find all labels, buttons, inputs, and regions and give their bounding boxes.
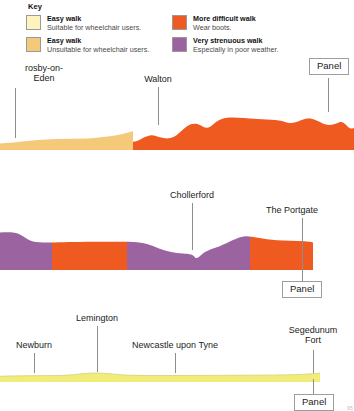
leader-line-crosby-on-eden xyxy=(15,88,16,138)
leader-line-panel-2 xyxy=(302,263,303,281)
label-newcastle-upon-tyne: Newcastle upon Tyne xyxy=(132,340,218,350)
label-line-1: rosby-on- xyxy=(25,63,63,73)
key-item-desc: Wear boots. xyxy=(193,24,256,32)
band-more-difficult-walk xyxy=(133,108,354,150)
key-column-right: More difficult walk Wear boots. Very str… xyxy=(172,15,279,59)
key-item-desc: Especially in poor weather. xyxy=(193,46,279,54)
band-easy-walk xyxy=(0,108,133,150)
key-item-desc: Unsuitable for wheelchair users. xyxy=(47,46,149,54)
label-chollerford: Chollerford xyxy=(170,190,214,200)
leader-line-lemington xyxy=(97,326,98,372)
label-line-1: Segedunum xyxy=(289,325,338,335)
section-1-profile-chart xyxy=(0,108,354,150)
band-more-difficult-walk xyxy=(250,222,313,270)
elevation-profile-page: Key Easy walk Suitable for wheelchair us… xyxy=(0,0,354,411)
elevation-profile-section-1 xyxy=(0,108,354,150)
section-3-profile-chart xyxy=(0,366,354,382)
easy-walk-no-wheelchair-swatch-icon xyxy=(26,37,41,52)
easy-walk-wheelchair-swatch-icon xyxy=(26,15,41,30)
key-item-very-strenuous-walk: Very strenuous walk Especially in poor w… xyxy=(172,37,279,54)
band-easy-walk xyxy=(0,366,320,382)
section-2-profile-chart xyxy=(0,222,354,270)
key-item-name: Very strenuous walk xyxy=(193,37,279,45)
key-item-name: Easy walk xyxy=(47,37,149,45)
label-line-1: The Portgate xyxy=(266,205,318,215)
leader-line-chollerford xyxy=(192,203,193,250)
leader-line-newburn xyxy=(34,353,35,373)
key-item-desc: Suitable for wheelchair users. xyxy=(47,24,141,32)
key-column-left: Easy walk Suitable for wheelchair users.… xyxy=(26,15,149,59)
band-very-strenuous-walk xyxy=(127,222,250,270)
panel-box-section-3[interactable]: Panel xyxy=(294,394,334,411)
key-title: Key xyxy=(28,2,326,11)
label-lemington: Lemington xyxy=(76,313,118,323)
label-line-1: Newburn xyxy=(16,340,52,350)
label-line-1: Newcastle upon Tyne xyxy=(132,340,218,350)
band-more-difficult-walk xyxy=(52,222,127,270)
section-2-difficulty-bands xyxy=(0,222,313,270)
label-line-1: Walton xyxy=(144,74,172,84)
more-difficult-walk-swatch-icon xyxy=(172,15,187,30)
panel-box-section-2[interactable]: Panel xyxy=(282,281,322,298)
label-walton: Walton xyxy=(144,74,172,84)
label-line-2: Eden xyxy=(33,73,54,83)
key-legend: Key Easy walk Suitable for wheelchair us… xyxy=(26,2,326,57)
leader-line-segedunum-fort xyxy=(313,350,314,373)
section-3-difficulty-bands xyxy=(0,366,320,382)
key-item-name: More difficult walk xyxy=(193,15,256,23)
elevation-profile-section-2 xyxy=(0,222,354,270)
key-item-name: Easy walk xyxy=(47,15,141,23)
elevation-profile-section-3 xyxy=(0,366,354,382)
very-strenuous-walk-swatch-icon xyxy=(172,37,187,52)
page-number: 95 xyxy=(347,405,353,411)
label-line-1: Chollerford xyxy=(170,190,214,200)
label-line-1: Lemington xyxy=(76,313,118,323)
label-newburn: Newburn xyxy=(16,340,52,350)
leader-line-the-portgate xyxy=(302,218,303,263)
leader-line-newcastle-upon-tyne xyxy=(175,353,176,373)
leader-line-panel-1 xyxy=(328,78,329,112)
label-segedunum-fort: Segedunum Fort xyxy=(289,325,338,345)
key-item-easy-walk-wheelchair: Easy walk Suitable for wheelchair users. xyxy=(26,15,149,32)
leader-line-panel-3 xyxy=(313,379,314,394)
label-line-2: Fort xyxy=(305,335,321,345)
leader-line-walton xyxy=(158,87,159,125)
key-item-easy-walk-no-wheelchair: Easy walk Unsuitable for wheelchair user… xyxy=(26,37,149,54)
band-very-strenuous-walk xyxy=(0,222,52,270)
key-item-more-difficult-walk: More difficult walk Wear boots. xyxy=(172,15,279,32)
label-crosby-on-eden: rosby-on- Eden xyxy=(25,63,63,83)
panel-box-section-1[interactable]: Panel xyxy=(309,58,349,75)
section-1-difficulty-bands xyxy=(0,108,354,150)
label-the-portgate: The Portgate xyxy=(266,205,318,215)
